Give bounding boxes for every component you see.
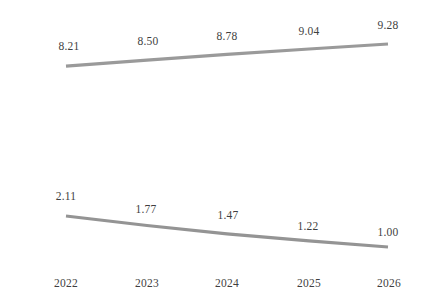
data-label-upper-2022: 8.21 bbox=[49, 40, 89, 52]
x-axis-tick-2024: 2024 bbox=[207, 277, 247, 289]
data-label-lower-2026: 1.00 bbox=[368, 226, 408, 238]
line-chart: 8.21 8.50 8.78 9.04 9.28 2.11 1.77 1.47 … bbox=[0, 0, 448, 307]
series-line-upper bbox=[66, 44, 388, 66]
x-axis-tick-2025: 2025 bbox=[289, 277, 329, 289]
data-label-lower-2022: 2.11 bbox=[46, 190, 86, 202]
data-label-upper-2024: 8.78 bbox=[207, 30, 247, 42]
data-label-lower-2023: 1.77 bbox=[126, 203, 166, 215]
data-label-lower-2024: 1.47 bbox=[208, 209, 248, 221]
data-label-upper-2026: 9.28 bbox=[368, 19, 408, 31]
x-axis-tick-2026: 2026 bbox=[369, 277, 409, 289]
x-axis-tick-2022: 2022 bbox=[46, 277, 86, 289]
x-axis-tick-2023: 2023 bbox=[127, 277, 167, 289]
data-label-lower-2025: 1.22 bbox=[288, 220, 328, 232]
data-label-upper-2025: 9.04 bbox=[289, 25, 329, 37]
data-label-upper-2023: 8.50 bbox=[128, 35, 168, 47]
